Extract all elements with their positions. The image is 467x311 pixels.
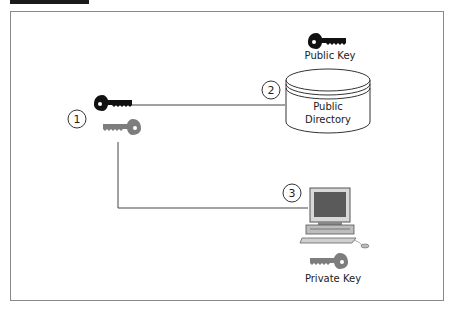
public-directory-label-line2: Directory xyxy=(298,114,358,125)
step-1-badge: 1 xyxy=(68,110,86,128)
public-key-label: Public Key xyxy=(300,50,360,61)
private-key-label: Private Key xyxy=(298,273,368,284)
svg-text:1: 1 xyxy=(74,113,81,126)
public-directory-label-line1: Public xyxy=(298,101,358,112)
private-key-icon xyxy=(310,253,348,269)
gray-key-icon xyxy=(103,119,141,135)
computer-icon xyxy=(300,188,369,248)
black-key-icon xyxy=(94,95,132,111)
diagram-canvas: 1 2 3 xyxy=(0,0,467,311)
public-key-icon xyxy=(308,33,346,49)
svg-text:3: 3 xyxy=(289,187,296,200)
step-3-badge: 3 xyxy=(283,184,301,202)
step-2-badge: 2 xyxy=(262,81,280,99)
svg-text:2: 2 xyxy=(268,84,275,97)
